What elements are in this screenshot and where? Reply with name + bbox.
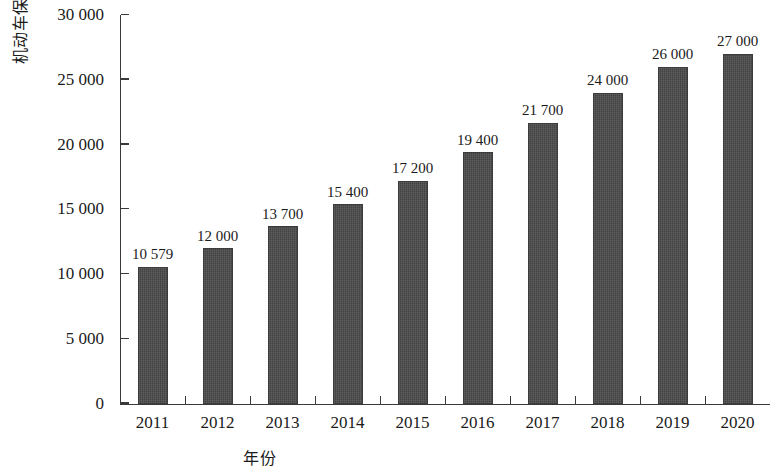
bar-value-label: 24 000 <box>553 72 663 88</box>
y-axis-tick <box>121 338 129 339</box>
y-axis-tick-label: 5 000 <box>0 330 104 347</box>
bar <box>268 226 298 403</box>
y-axis-tick-label: 20 000 <box>0 136 104 153</box>
y-axis-tick <box>121 14 129 15</box>
bar <box>463 152 493 403</box>
y-axis-tick-label: 30 000 <box>0 6 104 23</box>
bar-value-label: 21 700 <box>488 102 598 118</box>
x-axis-tick <box>315 396 316 404</box>
bar <box>723 54 753 404</box>
bar-value-label: 19 400 <box>423 132 533 148</box>
bar-value-label: 13 700 <box>228 206 338 222</box>
bar <box>593 93 623 404</box>
bar <box>203 248 233 403</box>
plot-area: 05 00010 00015 00020 00025 00030 000 10 … <box>120 15 770 405</box>
x-axis-tick <box>575 396 576 404</box>
y-axis-tick <box>121 143 129 144</box>
y-axis-line <box>120 15 121 405</box>
bar-value-label: 15 400 <box>293 184 403 200</box>
bar-value-label: 12 000 <box>163 228 273 244</box>
bar <box>333 204 363 403</box>
bar <box>658 67 688 404</box>
bar <box>528 123 558 404</box>
x-axis-title: 年份 <box>0 445 520 469</box>
bar <box>138 267 168 404</box>
y-axis-tick-label: 10 000 <box>0 265 104 282</box>
y-axis-tick <box>121 78 129 79</box>
x-axis-tick <box>380 396 381 404</box>
bar-value-label: 17 200 <box>358 160 468 176</box>
y-axis-tick <box>121 208 129 209</box>
x-axis-tick <box>250 396 251 404</box>
bar-chart: 机动车保有量/万辆 05 00010 00015 00020 00025 000… <box>0 0 781 472</box>
y-axis-tick-label: 0 <box>0 395 104 412</box>
y-axis-tick-label: 15 000 <box>0 200 104 217</box>
x-axis-tick-label: 2020 <box>693 413 781 433</box>
bar-value-label: 27 000 <box>683 33 781 49</box>
y-axis-tick <box>121 273 129 274</box>
x-axis-tick <box>445 396 446 404</box>
y-axis-tick <box>121 402 129 403</box>
y-axis-tick-label: 25 000 <box>0 71 104 88</box>
x-axis-tick <box>510 396 511 404</box>
bar-value-label: 10 579 <box>98 246 208 262</box>
x-axis-tick <box>705 396 706 404</box>
x-axis-tick <box>640 396 641 404</box>
x-axis-tick <box>185 396 186 404</box>
bar <box>398 181 428 404</box>
